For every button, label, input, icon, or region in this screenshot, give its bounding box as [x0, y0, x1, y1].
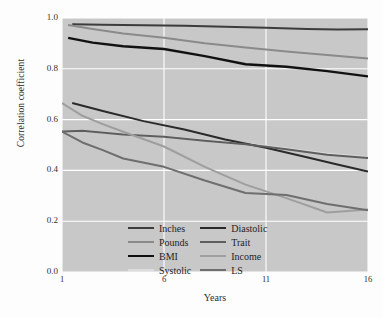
legend-label: Trait [231, 237, 250, 248]
y-tick-label: 0.8 [32, 63, 58, 73]
y-tick-label: 1.0 [32, 12, 58, 22]
legend-entry-pounds[interactable]: Pounds [128, 235, 191, 249]
x-tick-label: 16 [353, 274, 383, 284]
legend-swatch-ls [200, 269, 226, 271]
legend-swatch-income [200, 255, 226, 257]
y-tick-label: 0.2 [32, 215, 58, 225]
legend-entry-inches[interactable]: Inches [128, 221, 191, 235]
legend-label: Inches [159, 223, 185, 234]
series-line-diastolic [72, 103, 368, 171]
legend-swatch-inches [128, 227, 154, 229]
legend-entry-trait[interactable]: Trait [200, 235, 267, 249]
x-axis-tick-labels: 161116 [62, 274, 368, 288]
legend-label: Income [231, 251, 261, 262]
series-line-inches [72, 24, 368, 29]
chart-legend: InchesPoundsBMISystolicDiastolicTraitInc… [128, 221, 267, 277]
legend-swatch-diastolic [200, 227, 226, 229]
y-axis-tick-labels: 0.00.20.40.60.81.0 [28, 0, 58, 254]
legend-swatch-systolic [128, 269, 154, 271]
chart-figure: 0.00.20.40.60.81.0 Correlation coefficie… [0, 0, 383, 317]
x-tick-label: 6 [149, 274, 179, 284]
plot-area: InchesPoundsBMISystolicDiastolicTraitInc… [62, 18, 368, 272]
x-tick-label: 11 [251, 274, 281, 284]
legend-column-2: DiastolicTraitIncomeLS [200, 221, 267, 277]
legend-swatch-bmi [128, 255, 154, 257]
x-tick-label: 1 [47, 274, 77, 284]
legend-label: Pounds [159, 237, 188, 248]
legend-column-1: InchesPoundsBMISystolic [128, 221, 191, 277]
y-tick-label: 0.6 [32, 114, 58, 124]
legend-entry-diastolic[interactable]: Diastolic [200, 221, 267, 235]
series-lines [62, 24, 368, 212]
y-tick-label: 0.4 [32, 164, 58, 174]
legend-swatch-pounds [128, 241, 154, 243]
legend-label: Diastolic [231, 223, 267, 234]
legend-swatch-trait [200, 241, 226, 243]
legend-entry-income[interactable]: Income [200, 249, 267, 263]
legend-entry-bmi[interactable]: BMI [128, 249, 191, 263]
y-axis-title: Correlation coefficient [16, 18, 26, 188]
legend-label: BMI [159, 251, 178, 262]
series-line-trait [62, 131, 368, 158]
x-axis-title: Years [62, 292, 368, 303]
